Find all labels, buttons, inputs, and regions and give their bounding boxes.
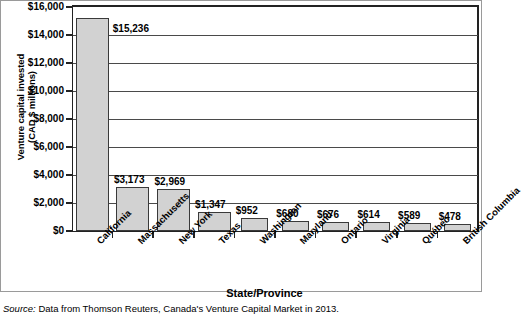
y-axis-tick-label: $14,000 xyxy=(28,30,64,40)
bar-value-label: $3,173 xyxy=(114,175,145,185)
source-text: Data from Thomson Reuters, Canada's Vent… xyxy=(36,303,339,314)
x-axis-title-wrap: State/Province xyxy=(0,287,483,299)
y-axis-tick-label: $2,000 xyxy=(33,198,64,208)
gridline xyxy=(72,119,478,120)
y-axis-tick xyxy=(66,146,73,148)
bar-value-label: $2,969 xyxy=(155,177,186,187)
y-axis-tick xyxy=(66,118,73,120)
y-axis-tick-label: $4,000 xyxy=(33,170,64,180)
gridline xyxy=(72,147,478,148)
y-axis-tick xyxy=(66,230,73,232)
y-axis-title-line1: Venture capital invested xyxy=(15,0,26,217)
bar-value-label: $15,236 xyxy=(113,24,149,34)
y-axis-tick xyxy=(66,202,73,204)
y-axis-tick xyxy=(66,34,73,36)
y-axis-tick xyxy=(66,6,73,8)
gridline xyxy=(72,35,478,36)
y-axis-tick-label: $8,000 xyxy=(33,114,64,124)
y-axis-tick xyxy=(66,62,73,64)
gridline xyxy=(72,91,478,92)
source-note: Source: Data from Thomson Reuters, Canad… xyxy=(3,303,339,314)
y-axis-tick-label: $10,000 xyxy=(28,86,64,96)
bar xyxy=(76,18,109,231)
y-axis-tick xyxy=(66,174,73,176)
y-axis-tick-label: $6,000 xyxy=(33,142,64,152)
y-axis-tick-label: $0 xyxy=(53,226,64,236)
y-axis-tick-label: $16,000 xyxy=(28,2,64,12)
bar xyxy=(241,218,268,231)
bar-value-label: $1,347 xyxy=(195,200,226,210)
source-label: Source: xyxy=(3,303,36,314)
bar-value-label: $952 xyxy=(236,206,258,216)
x-axis-title: State/Province xyxy=(226,287,302,299)
gridline xyxy=(72,63,478,64)
y-axis-tick xyxy=(66,90,73,92)
y-axis-tick-label: $12,000 xyxy=(28,58,64,68)
